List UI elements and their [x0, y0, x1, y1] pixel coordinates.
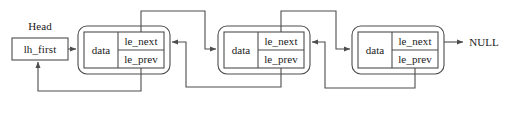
- node-1-prev-label: le_prev: [124, 54, 158, 65]
- null-terminator-label: NULL: [469, 37, 499, 48]
- head-caption: Head: [28, 21, 52, 32]
- node-2-prev-label: le_prev: [264, 54, 298, 65]
- head-lh-first-label: lh_first: [24, 44, 57, 55]
- arrow-node-2-prev-to-node-1: [172, 42, 281, 87]
- node-1-data-label: data: [92, 45, 111, 56]
- node-3-prev-label: le_prev: [398, 54, 432, 65]
- node-3-next-label: le_next: [398, 36, 431, 47]
- arrow-node-1-prev-to-head: [38, 62, 141, 91]
- arrow-node-3-prev-to-node-2: [312, 42, 415, 88]
- linked-list-diagram: Head lh_first data le_next le_prev data …: [0, 0, 505, 117]
- node-3-data-label: data: [366, 45, 385, 56]
- node-2-data-label: data: [232, 45, 251, 56]
- node-1-next-label: le_next: [124, 36, 157, 47]
- node-2-next-label: le_next: [264, 36, 297, 47]
